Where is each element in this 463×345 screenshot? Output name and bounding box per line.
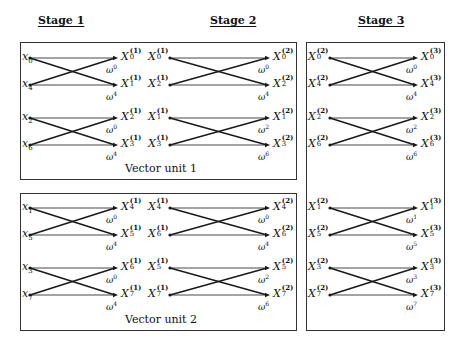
arrowhead-icon — [265, 233, 270, 237]
stage2-output-label: X(2)6 — [273, 228, 293, 239]
arrowhead-icon — [113, 56, 118, 60]
arrowhead-icon — [413, 143, 418, 147]
twiddle-factor: ω2 — [258, 274, 269, 285]
stage1-output-label: X(1)4 — [121, 201, 141, 212]
stage1-input-label: x1 — [22, 201, 33, 215]
stage2-input-label: X(1)4 — [148, 201, 168, 212]
node-dot — [328, 233, 331, 236]
stage3-input-label: X(2)2 — [308, 111, 328, 122]
node-dot — [168, 233, 171, 236]
twiddle-factor: ω0 — [258, 64, 269, 75]
arrowhead-icon — [413, 233, 418, 237]
twiddle-factor: ω7 — [406, 301, 417, 312]
node-dot — [328, 266, 331, 269]
stage3-output-label: X(3)7 — [421, 288, 441, 299]
stage2-input-label: X(1)6 — [148, 228, 168, 239]
stage3-input-label: X(2)3 — [308, 261, 328, 272]
twiddle-factor: ω3 — [406, 274, 417, 285]
arrowhead-icon — [113, 266, 118, 270]
node-dot — [328, 206, 331, 209]
stage3-output-label: X(3)3 — [421, 261, 441, 272]
twiddle-factor: ω0 — [106, 64, 117, 75]
stage3-input-label: X(2)5 — [308, 228, 328, 239]
twiddle-factor: ω6 — [258, 301, 269, 312]
stage3-output-label: X(3)5 — [421, 228, 441, 239]
twiddle-factor: ω0 — [406, 64, 417, 75]
stage3-output-label: X(3)2 — [421, 111, 441, 122]
stage3-input-label: X(2)1 — [308, 201, 328, 212]
node-dot — [168, 266, 171, 269]
twiddle-factor: ω0 — [106, 214, 117, 225]
arrowhead-icon — [413, 116, 418, 120]
twiddle-factor: ω0 — [106, 274, 117, 285]
twiddle-factor: ω0 — [106, 124, 117, 135]
node-dot — [168, 206, 171, 209]
arrowhead-icon — [113, 206, 118, 210]
stage3-output-label: X(3)4 — [421, 78, 441, 89]
arrowhead-icon — [113, 116, 118, 120]
arrowhead-icon — [413, 56, 418, 60]
twiddle-factor: ω2 — [258, 124, 269, 135]
arrowhead-icon — [265, 143, 270, 147]
stage1-output-label: X(1)3 — [121, 138, 141, 149]
twiddle-factor: ω4 — [106, 151, 117, 162]
stage3-output-label: X(3)6 — [421, 138, 441, 149]
twiddle-factor: ω6 — [258, 151, 269, 162]
stage2-input-label: X(1)3 — [148, 138, 168, 149]
twiddle-factor: ω4 — [258, 91, 269, 102]
arrowhead-icon — [413, 83, 418, 87]
stage1-output-label: X(1)0 — [121, 51, 141, 62]
stage2-output-label: X(2)3 — [273, 138, 293, 149]
twiddle-factor: ω1 — [406, 214, 417, 225]
stage1-input-label: x6 — [22, 138, 33, 152]
arrowhead-icon — [265, 116, 270, 120]
stage1-output-label: X(1)2 — [121, 111, 141, 122]
arrowhead-icon — [265, 266, 270, 270]
arrowhead-icon — [265, 56, 270, 60]
twiddle-factor: ω4 — [106, 91, 117, 102]
stage2-output-label: X(2)5 — [273, 261, 293, 272]
stage2-output-label: X(2)0 — [273, 51, 293, 62]
stage1-input-label: x7 — [22, 288, 33, 302]
stage2-input-label: X(1)0 — [148, 51, 168, 62]
arrowhead-icon — [413, 206, 418, 210]
stage2-output-label: X(2)7 — [273, 288, 293, 299]
node-dot — [168, 293, 171, 296]
stage2-output-label: X(2)2 — [273, 78, 293, 89]
twiddle-factor: ω4 — [106, 241, 117, 252]
node-dot — [328, 83, 331, 86]
node-dot — [168, 143, 171, 146]
stage3-input-label: X(2)7 — [308, 288, 328, 299]
stage2-input-label: X(1)7 — [148, 288, 168, 299]
twiddle-factor: ω0 — [258, 214, 269, 225]
stage1-input-label: x2 — [22, 111, 33, 125]
arrowhead-icon — [113, 233, 118, 237]
butterfly-network — [0, 0, 463, 345]
stage3-input-label: X(2)4 — [308, 78, 328, 89]
stage2-input-label: X(1)2 — [148, 78, 168, 89]
stage3-output-label: X(3)0 — [421, 51, 441, 62]
stage2-input-label: X(1)1 — [148, 111, 168, 122]
twiddle-factor: ω5 — [406, 241, 417, 252]
stage2-input-label: X(1)5 — [148, 261, 168, 272]
node-dot — [168, 56, 171, 59]
arrowhead-icon — [265, 293, 270, 297]
arrowhead-icon — [265, 83, 270, 87]
stage1-input-label: x3 — [22, 261, 33, 275]
arrowhead-icon — [113, 293, 118, 297]
node-dot — [168, 83, 171, 86]
node-dot — [328, 143, 331, 146]
stage1-input-label: x4 — [22, 78, 33, 92]
node-dot — [328, 56, 331, 59]
stage1-output-label: X(1)1 — [121, 78, 141, 89]
stage3-input-label: X(2)6 — [308, 138, 328, 149]
stage1-output-label: X(1)7 — [121, 288, 141, 299]
arrowhead-icon — [113, 83, 118, 87]
node-dot — [328, 293, 331, 296]
node-dot — [328, 116, 331, 119]
stage2-output-label: X(2)4 — [273, 201, 293, 212]
stage3-output-label: X(3)1 — [421, 201, 441, 212]
arrowhead-icon — [113, 143, 118, 147]
arrowhead-icon — [413, 266, 418, 270]
stage1-input-label: x0 — [22, 51, 33, 65]
